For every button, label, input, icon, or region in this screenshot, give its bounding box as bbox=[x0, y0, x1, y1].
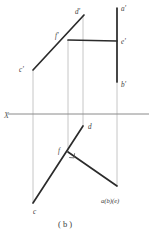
label-c: c bbox=[33, 208, 37, 216]
segment-c-d bbox=[33, 126, 83, 203]
frontal-view-group bbox=[33, 8, 117, 82]
horizontal-view-group bbox=[33, 126, 117, 203]
label-f: f bbox=[58, 147, 61, 155]
projection-lines-group bbox=[33, 8, 117, 203]
segment-c-prime-d-prime bbox=[33, 15, 84, 70]
label-c-prime: c' bbox=[19, 66, 24, 74]
label-a-b-e: a(b)(e) bbox=[101, 197, 119, 205]
label-e-prime: e' bbox=[121, 38, 126, 46]
label-b-prime: b' bbox=[121, 81, 127, 89]
label-d-prime: d' bbox=[75, 8, 81, 16]
descriptive-geometry-figure: d' a' f' e' c' b' d f a(b)(e) c X ( b ) bbox=[0, 0, 151, 232]
label-a-prime: a' bbox=[121, 5, 127, 13]
projection-drawing-canvas: d' a' f' e' c' b' d f a(b)(e) c X ( b ) bbox=[0, 0, 151, 232]
label-d: d bbox=[88, 123, 92, 131]
point-labels-group: d' a' f' e' c' b' d f a(b)(e) c bbox=[19, 5, 127, 216]
segment-f-prime-e-prime bbox=[68, 40, 117, 41]
label-f-prime: f' bbox=[55, 32, 59, 40]
segment-f-abe bbox=[68, 152, 117, 186]
figure-caption: ( b ) bbox=[58, 219, 72, 229]
label-x-axis: X bbox=[3, 111, 10, 120]
